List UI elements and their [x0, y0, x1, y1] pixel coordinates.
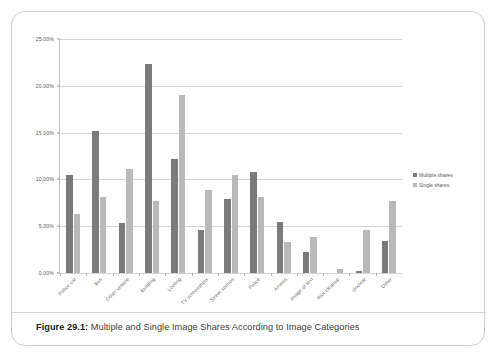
bar	[126, 169, 133, 273]
legend-swatch-icon	[413, 173, 417, 177]
bar	[277, 222, 284, 273]
chart-legend: Multiple sharesSingle shares	[413, 172, 483, 192]
bar-group	[244, 39, 270, 273]
x-axis-label: Police	[247, 276, 261, 290]
bar	[363, 230, 370, 273]
bar	[100, 197, 107, 273]
bar	[284, 242, 291, 273]
bar	[205, 190, 212, 273]
bar-group	[297, 39, 323, 273]
x-axis-label: Other	[380, 276, 393, 289]
figure-caption-text: Multiple and Single Image Shares Accordi…	[91, 322, 360, 332]
bar	[258, 197, 265, 273]
y-tick-label: 10.00%	[36, 176, 54, 182]
bar	[145, 64, 152, 273]
bar	[337, 269, 344, 273]
figure-number: Figure 29.1:	[36, 322, 88, 332]
chart-area: 0.00%5.00%10.00%15.00%20.00%25.00% Polic…	[12, 12, 486, 305]
legend-item: Single shares	[413, 182, 483, 188]
bar	[179, 95, 186, 273]
bar-group	[323, 39, 349, 273]
y-tick-label: 0.00%	[39, 270, 54, 276]
bar	[303, 252, 310, 273]
x-axis-label: Bus	[93, 276, 104, 287]
bar	[389, 201, 396, 273]
x-axis-label: Arrests	[272, 276, 288, 292]
bar	[232, 175, 239, 273]
bar-group	[113, 39, 139, 273]
legend-label: Multiple shares	[419, 172, 453, 178]
bar	[119, 223, 126, 273]
figure-card: 0.00%5.00%10.00%15.00%20.00%25.00% Polic…	[11, 11, 485, 346]
bar-group	[86, 39, 112, 273]
bar-group	[271, 39, 297, 273]
bar	[198, 230, 205, 273]
bar	[310, 237, 317, 273]
legend-swatch-icon	[413, 183, 417, 187]
x-axis-label: Looting	[166, 276, 182, 292]
bar	[153, 201, 160, 273]
y-tick-label: 20.00%	[36, 83, 54, 89]
plot-area: 0.00%5.00%10.00%15.00%20.00%25.00%	[60, 39, 402, 273]
bar	[382, 241, 389, 273]
bar	[92, 131, 99, 273]
legend-label: Single shares	[419, 182, 449, 188]
legend-item: Multiple shares	[413, 172, 483, 178]
bar-group	[192, 39, 218, 273]
y-tick-label: 15.00%	[36, 130, 54, 136]
bar-group	[60, 39, 86, 273]
bar	[356, 271, 363, 273]
bar-group	[139, 39, 165, 273]
caption-divider	[12, 312, 486, 313]
bar-group	[376, 39, 402, 273]
bar-group	[349, 39, 375, 273]
x-axis-label: Building	[139, 276, 156, 293]
y-tick-label: 5.00%	[39, 223, 54, 229]
bar-groups	[60, 39, 402, 273]
bar	[74, 214, 81, 273]
bar-group	[218, 39, 244, 273]
bar	[66, 175, 73, 273]
x-axis-label: Unclear	[350, 276, 367, 293]
figure-caption: Figure 29.1: Multiple and Single Image S…	[36, 322, 359, 332]
bar	[171, 159, 178, 273]
y-tick-label: 25.00%	[36, 36, 54, 42]
bar-group	[165, 39, 191, 273]
x-axis-label: Police car	[57, 276, 77, 296]
bar	[224, 199, 231, 273]
bar	[250, 172, 257, 273]
